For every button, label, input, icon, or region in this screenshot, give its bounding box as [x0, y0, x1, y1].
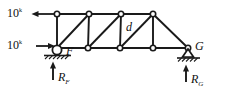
- member-label-d: d: [126, 21, 132, 33]
- load-arrow-top: [32, 11, 55, 17]
- member-diagonal-2: [88, 14, 121, 48]
- reaction-F-subscript: F: [65, 78, 69, 86]
- load-bottom-value: 10: [7, 38, 19, 52]
- load-bottom-unit: k: [19, 39, 22, 45]
- joint-top-2: [86, 11, 91, 16]
- member-vertical-d: [120, 14, 121, 48]
- support-roller-F: [52, 45, 61, 54]
- node-label-G: G: [195, 40, 204, 52]
- reaction-arrow-G: [183, 65, 189, 83]
- member-diagonal-3: [120, 14, 153, 48]
- reaction-arrow-F: [50, 62, 56, 81]
- member-end-diagonal: [153, 14, 188, 48]
- joint-top-1: [54, 11, 59, 16]
- member-vertical-2: [88, 14, 89, 48]
- load-top-unit: k: [19, 7, 22, 13]
- support-pin-G: [183, 49, 194, 57]
- load-top-value: 10: [7, 6, 19, 20]
- reaction-G-subscript: G: [198, 80, 203, 88]
- joint-bottom-3: [117, 45, 122, 50]
- joint-bottom-2: [85, 45, 90, 50]
- joint-bottom-4: [150, 45, 155, 50]
- load-label-bottom: 10k: [7, 39, 22, 51]
- joint-top-4: [150, 11, 155, 16]
- load-label-top: 10k: [7, 7, 22, 19]
- reaction-label-F: RF: [58, 71, 70, 86]
- reaction-label-G: RG: [191, 73, 203, 88]
- truss-diagram: 10k 10k d F G RF RG: [0, 0, 225, 93]
- joint-top-3: [118, 11, 123, 16]
- member-diagonal-1: [57, 14, 89, 48]
- node-label-F: F: [66, 45, 73, 57]
